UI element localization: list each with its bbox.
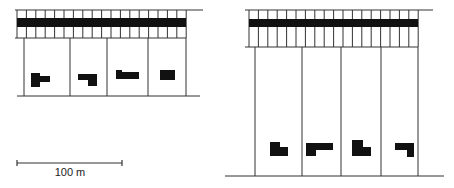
building <box>116 70 139 79</box>
building <box>78 74 97 86</box>
building-footprint <box>395 143 414 150</box>
road-band <box>249 19 418 27</box>
building-footprint <box>363 147 371 156</box>
road-strip <box>15 10 203 38</box>
building-footprint <box>116 70 122 79</box>
building-footprint <box>270 142 280 156</box>
building-footprint <box>306 143 333 150</box>
scale-bar-label: 100 m <box>40 166 100 178</box>
building <box>395 143 414 157</box>
building-footprint <box>31 73 40 87</box>
building <box>352 140 371 156</box>
right-site-plan <box>225 10 444 176</box>
building <box>270 142 288 156</box>
left-site-plan <box>15 10 203 96</box>
building-footprint <box>39 76 50 82</box>
building-footprint <box>352 140 363 156</box>
building <box>160 70 175 80</box>
building-footprint <box>407 150 414 157</box>
site-plan-diagram <box>0 0 454 188</box>
building-footprint <box>160 70 175 80</box>
building-footprint <box>78 74 97 80</box>
road-band <box>17 18 186 27</box>
road-strip <box>245 10 433 47</box>
building <box>306 143 333 156</box>
building-footprint <box>280 147 288 156</box>
building-footprint <box>306 150 316 156</box>
building-footprint <box>88 80 97 86</box>
building <box>31 73 50 87</box>
building-footprint <box>122 72 139 79</box>
